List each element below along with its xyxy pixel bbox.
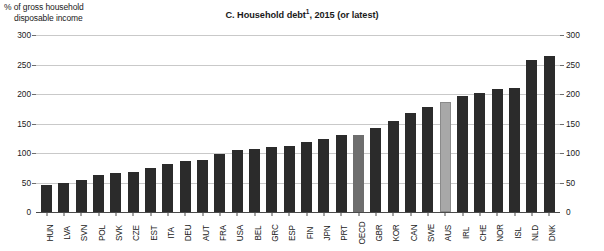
y-tick-right-200: 200 <box>566 90 580 98</box>
bar-slot-cze <box>125 35 142 212</box>
bar-pol[interactable] <box>93 175 104 212</box>
x-tick-nld <box>531 213 532 216</box>
bar-svk[interactable] <box>110 173 121 212</box>
bar-slot-usa <box>229 35 246 212</box>
x-axis-labels: HUNLVASVNPOLSVKCZEESTITADEUAUTFRAUSABELG… <box>36 213 560 251</box>
y-tick-left-200: 200 <box>17 90 31 98</box>
bar-jpn[interactable] <box>318 139 329 212</box>
y-tick-left-50: 50 <box>22 179 31 187</box>
x-label-slot-swe: SWE <box>419 213 436 251</box>
bar-aut[interactable] <box>197 160 208 212</box>
x-tick-kor <box>393 213 394 216</box>
x-label-isl: ISL <box>515 227 523 239</box>
x-label-dnk: DNK <box>549 225 557 242</box>
bar-slot-deu <box>177 35 194 212</box>
x-label-slot-nld: NLD <box>523 213 540 251</box>
x-label-deu: DEU <box>185 225 193 242</box>
bar-slot-dnk <box>541 35 558 212</box>
x-label-svk: SVK <box>116 225 124 241</box>
x-label-slot-kor: KOR <box>385 213 402 251</box>
x-label-slot-deu: DEU <box>177 213 194 251</box>
axis-tick-right-100 <box>560 153 564 154</box>
bar-grc[interactable] <box>266 147 277 212</box>
bar-oecd[interactable] <box>353 135 364 212</box>
bar-slot-prt <box>333 35 350 212</box>
x-tick-fra <box>219 213 220 216</box>
bar-gbr[interactable] <box>370 128 381 212</box>
x-tick-aut <box>202 213 203 216</box>
x-label-slot-dnk: DNK <box>541 213 558 251</box>
bar-est[interactable] <box>145 168 156 212</box>
x-tick-gbr <box>375 213 376 216</box>
x-label-slot-irl: IRL <box>454 213 471 251</box>
bar-esp[interactable] <box>284 146 295 212</box>
axis-tick-right-250 <box>560 65 564 66</box>
x-label-slot-jpn: JPN <box>315 213 332 251</box>
x-tick-oecd <box>358 213 359 216</box>
bar-prt[interactable] <box>336 135 347 212</box>
bar-cze[interactable] <box>128 172 139 212</box>
x-label-aus: AUS <box>445 225 453 241</box>
bar-hun[interactable] <box>41 185 52 212</box>
x-label-can: CAN <box>411 225 419 242</box>
x-label-lva: LVA <box>64 226 72 240</box>
y-tick-left-150: 150 <box>17 120 31 128</box>
y-tick-right-0: 0 <box>566 208 571 216</box>
x-tick-cze <box>133 213 134 216</box>
bar-deu[interactable] <box>180 161 191 212</box>
x-label-slot-est: EST <box>142 213 159 251</box>
x-label-nor: NOR <box>497 224 505 242</box>
x-tick-fin <box>306 213 307 216</box>
x-tick-che <box>479 213 480 216</box>
x-label-slot-fin: FIN <box>298 213 315 251</box>
x-tick-isl <box>514 213 515 216</box>
x-tick-hun <box>46 213 47 216</box>
bar-swe[interactable] <box>422 107 433 212</box>
x-label-gbr: GBR <box>376 224 384 241</box>
bar-irl[interactable] <box>457 96 468 212</box>
x-label-fra: FRA <box>220 225 228 241</box>
bar-bel[interactable] <box>249 149 260 212</box>
x-tick-svn <box>81 213 82 216</box>
bar-usa[interactable] <box>232 150 243 212</box>
x-label-slot-can: CAN <box>402 213 419 251</box>
x-tick-svk <box>115 213 116 216</box>
bar-fra[interactable] <box>214 154 225 212</box>
bar-dnk[interactable] <box>544 56 555 212</box>
axis-tick-right-150 <box>560 124 564 125</box>
bar-slot-nor <box>489 35 506 212</box>
bar-isl[interactable] <box>509 88 520 212</box>
x-label-slot-prt: PRT <box>333 213 350 251</box>
bar-ita[interactable] <box>162 164 173 212</box>
bar-lva[interactable] <box>58 183 69 212</box>
x-tick-ita <box>167 213 168 216</box>
bar-aus[interactable] <box>440 102 451 212</box>
bar-svn[interactable] <box>76 180 87 212</box>
x-label-hun: HUN <box>47 224 55 241</box>
x-label-esp: ESP <box>289 225 297 241</box>
bar-slot-nld <box>523 35 540 212</box>
bar-can[interactable] <box>405 113 416 212</box>
x-tick-usa <box>237 213 238 216</box>
x-label-slot-usa: USA <box>229 213 246 251</box>
x-label-swe: SWE <box>428 224 436 242</box>
bar-nld[interactable] <box>526 60 537 212</box>
bar-slot-aut <box>194 35 211 212</box>
bar-fin[interactable] <box>301 142 312 212</box>
bar-nor[interactable] <box>492 89 503 212</box>
bar-slot-swe <box>419 35 436 212</box>
bar-slot-svk <box>107 35 124 212</box>
x-label-slot-aut: AUT <box>194 213 211 251</box>
x-label-jpn: JPN <box>324 226 332 241</box>
bar-che[interactable] <box>474 93 485 212</box>
x-label-pol: POL <box>99 225 107 241</box>
bar-slot-pol <box>90 35 107 212</box>
x-tick-grc <box>271 213 272 216</box>
bar-slot-jpn <box>315 35 332 212</box>
x-tick-prt <box>341 213 342 216</box>
x-tick-bel <box>254 213 255 216</box>
x-label-slot-esp: ESP <box>281 213 298 251</box>
x-label-oecd: OECD <box>359 222 367 245</box>
bar-kor[interactable] <box>388 121 399 212</box>
x-label-fin: FIN <box>307 227 315 240</box>
